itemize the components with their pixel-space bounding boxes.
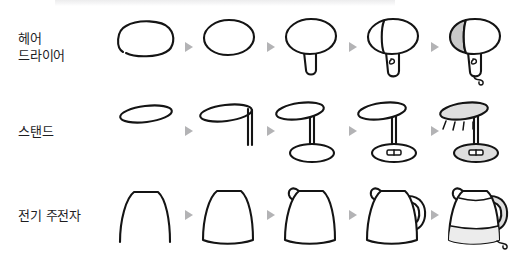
step-kettle-5 (440, 172, 512, 256)
step-arrow-icon (348, 41, 358, 53)
step-stand-1 (112, 88, 184, 174)
step-arrow-icon (266, 41, 276, 53)
step-hair-dryer-2 (194, 4, 266, 90)
step-sequence-hair-dryer (112, 4, 524, 90)
drawing-body-with-spout (276, 172, 348, 256)
step-stand-4 (358, 88, 430, 174)
step-arrow-icon (348, 209, 358, 221)
step-hair-dryer-4 (358, 4, 430, 90)
step-sequence-electric-kettle (112, 172, 524, 256)
drawing-shaded-with-cord (440, 4, 512, 90)
step-stand-2 (194, 88, 266, 174)
row-hair-dryer: 헤어 드라이어 (0, 4, 524, 90)
drawing-base-switch (358, 88, 430, 174)
drawing-nozzle-and-switch (358, 4, 430, 90)
row-label-electric-kettle: 전기 주전자 (0, 207, 112, 224)
drawing-stem-with-base (276, 88, 348, 174)
step-stand-5 (440, 88, 512, 174)
step-kettle-3 (276, 172, 348, 256)
step-arrow-icon (430, 41, 440, 53)
step-kettle-4 (358, 172, 430, 256)
step-arrow-icon (430, 209, 440, 221)
row-stand: 스탠드 (0, 88, 524, 174)
drawing-closed-oval-body (194, 4, 266, 90)
step-arrow-icon (184, 125, 194, 137)
drawing-closed-trapezoid-body (194, 172, 266, 256)
step-hair-dryer-5 (440, 4, 512, 90)
drawing-body-with-handle (358, 172, 430, 256)
step-hair-dryer-1 (112, 4, 184, 90)
drawing-flat-ellipse-shade (112, 88, 184, 174)
row-label-hair-dryer: 헤어 드라이어 (0, 30, 112, 64)
step-stand-3 (276, 88, 348, 174)
drawing-open-oval-outline (112, 4, 184, 90)
drawing-shaded-with-light (440, 88, 512, 174)
step-kettle-1 (112, 172, 184, 256)
drawing-shade-with-stem (194, 88, 266, 174)
step-arrow-icon (184, 41, 194, 53)
step-kettle-2 (194, 172, 266, 256)
step-arrow-icon (266, 209, 276, 221)
drawing-lid-water-and-cord (440, 172, 512, 256)
step-hair-dryer-3 (276, 4, 348, 90)
step-arrow-icon (266, 125, 276, 137)
row-label-stand: 스탠드 (0, 123, 112, 140)
row-electric-kettle: 전기 주전자 (0, 172, 524, 256)
drawing-body-with-handle (276, 4, 348, 90)
tutorial-sheet: 헤어 드라이어 (0, 0, 524, 256)
step-arrow-icon (348, 125, 358, 137)
step-arrow-icon (184, 209, 194, 221)
step-sequence-stand (112, 88, 524, 174)
drawing-open-arch-outline (112, 172, 184, 256)
step-arrow-icon (430, 125, 440, 137)
